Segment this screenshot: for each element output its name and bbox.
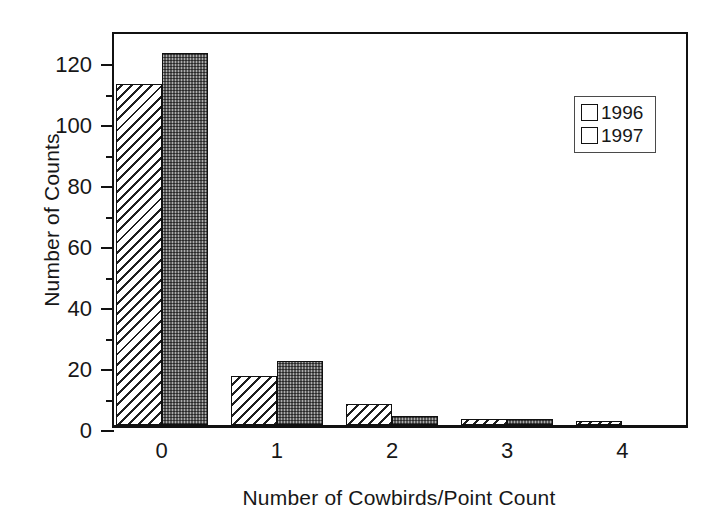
bar-1997-cat-0 (162, 53, 208, 425)
y-tick-120: 120 (101, 64, 114, 66)
legend-swatch-1996-icon (581, 104, 598, 121)
x-tick-label-0: 0 (117, 438, 207, 464)
legend-label-1996: 1996 (601, 103, 643, 122)
bar-1997-cat-3 (507, 419, 553, 425)
bar-1996-cat-2 (346, 404, 392, 425)
y-tick-20: 20 (101, 369, 114, 371)
y-tick-60: 60 (101, 247, 114, 249)
legend-swatch-1997-icon (581, 127, 598, 144)
y-minor-tick-110 (106, 95, 114, 97)
y-tick-label: 0 (80, 418, 92, 444)
plot-area: 020406080100120 01234 (112, 32, 688, 428)
y-tick-label: 100 (55, 113, 92, 139)
y-minor-tick-30 (106, 339, 114, 341)
legend-label-1997: 1997 (601, 126, 643, 145)
y-tick-100: 100 (101, 125, 114, 127)
bar-1997-cat-1 (277, 361, 323, 425)
legend-item: 1996 (581, 101, 650, 124)
x-tick-label-3: 3 (462, 438, 552, 464)
bar-1997-cat-2 (392, 416, 438, 425)
y-tick-label: 80 (68, 174, 92, 200)
y-minor-tick-70 (106, 217, 114, 219)
bar-1996-cat-4 (576, 421, 622, 425)
y-tick-label: 120 (55, 52, 92, 78)
chart-figure: Number of Counts Number of Cowbirds/Poin… (0, 0, 704, 523)
y-tick-0: 0 (101, 430, 114, 432)
y-minor-tick-10 (106, 400, 114, 402)
y-minor-tick-50 (106, 278, 114, 280)
legend-item: 1997 (581, 124, 650, 147)
y-tick-40: 40 (101, 308, 114, 310)
y-tick-label: 20 (68, 357, 92, 383)
y-minor-tick-90 (106, 156, 114, 158)
y-tick-80: 80 (101, 186, 114, 188)
chart-legend: 1996 1997 (574, 96, 656, 153)
x-tick-label-1: 1 (232, 438, 322, 464)
x-tick-label-4: 4 (577, 438, 667, 464)
y-tick-label: 40 (68, 296, 92, 322)
bar-1996-cat-0 (116, 84, 162, 425)
x-axis-title: Number of Cowbirds/Point Count (110, 486, 688, 510)
x-tick-label-2: 2 (347, 438, 437, 464)
bar-1996-cat-3 (461, 419, 507, 425)
bar-1996-cat-1 (231, 376, 277, 425)
y-tick-label: 60 (68, 235, 92, 261)
